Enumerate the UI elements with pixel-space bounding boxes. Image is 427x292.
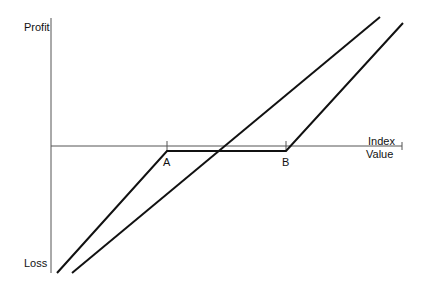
value-label: Value — [366, 148, 393, 160]
piecewise-payoff-line — [57, 23, 403, 273]
loss-label: Loss — [24, 257, 47, 269]
point-b-label: B — [282, 156, 289, 168]
linear-payoff-line — [72, 17, 380, 273]
point-a-label: A — [163, 156, 170, 168]
profit-label: Profit — [24, 21, 50, 33]
index-label: Index — [368, 135, 395, 147]
payoff-diagram — [0, 0, 427, 292]
